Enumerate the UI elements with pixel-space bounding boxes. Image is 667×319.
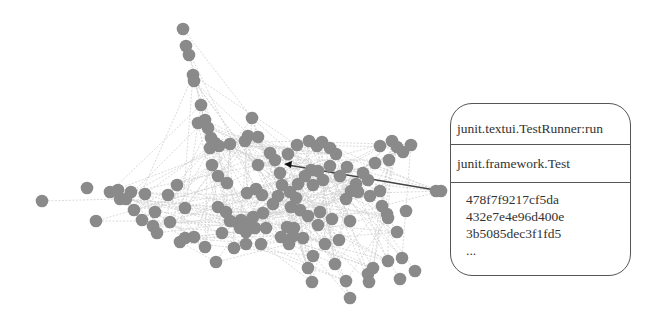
graph-node [256,189,269,202]
graph-node [369,157,382,170]
graph-node [252,131,265,144]
graph-node [367,262,380,275]
graph-node [326,213,339,226]
graph-node [306,276,319,289]
graph-node [164,216,177,229]
graph-node [382,212,395,225]
graph-node [409,265,422,278]
graph-node [246,112,259,125]
graph-node [125,186,138,199]
graph-node [341,161,354,174]
graph-node [288,222,301,235]
graph-node [314,206,327,219]
graph-node [188,231,201,244]
graph-node [344,215,357,228]
graph-node [352,186,365,199]
graph-node [312,219,325,232]
node-detail-callout: junit.textui.TestRunner:run junit.framew… [450,103,631,276]
graph-node [188,75,201,88]
graph-node [382,255,395,268]
graph-node [252,159,265,172]
graph-node [249,222,262,235]
graph-node [183,49,196,62]
graph-node [307,179,320,192]
graph-node [264,147,277,160]
ellipsis: ... [466,242,630,259]
graph-node [340,275,353,288]
graph-node [405,139,418,152]
graph-node [274,167,287,180]
graph-node [324,160,337,173]
graph-node [139,188,152,201]
graph-node [228,242,241,255]
graph-node [255,238,268,251]
graph-node [90,215,103,228]
class-name: junit.framework.Test [451,145,630,183]
graph-node [260,222,273,235]
commit-hash: 3b5085dec3f1fd5 [466,225,630,242]
graph-node [128,204,141,217]
graph-node [291,139,304,152]
commit-hash: 432e7e4e96d400e [466,208,630,225]
graph-node [330,148,343,161]
graph-node [224,138,237,151]
graph-node [81,182,94,195]
graph-node [267,198,280,211]
graph-node [435,185,448,198]
graph-node [151,227,164,240]
graph-node [162,189,175,202]
graph-node [290,192,303,205]
graph-node [36,195,49,208]
graph-node [136,214,149,227]
graph-node [192,117,205,130]
graph-node [204,142,217,155]
graph-node [307,250,320,263]
graph-nodes [36,23,448,305]
graph-node [319,238,332,251]
graph-node [394,273,407,286]
graph-node [344,292,357,305]
graph-node [396,252,409,265]
graph-node [302,262,315,275]
method-name: junit.textui.TestRunner:run [451,104,630,145]
graph-node [329,258,342,271]
graph-node [400,205,413,218]
graph-node [374,140,387,153]
graph-node [195,99,208,112]
commit-hash: 478f7f9217cf5da [466,191,630,208]
graph-node [212,170,225,183]
graph-node [234,222,247,235]
graph-node [302,210,315,223]
graph-node [177,23,190,36]
graph-node [282,148,295,161]
graph-node [240,238,253,251]
graph-node [333,234,346,247]
graph-node [179,202,192,215]
graph-node [357,167,370,180]
graph-node [364,190,377,203]
graph-node [149,206,162,219]
graph-node [171,179,184,192]
graph-node [199,241,212,254]
graph-node [391,226,404,239]
commit-hash-list: 478f7f9217cf5da 432e7e4e96d400e 3b5085de… [451,183,630,259]
graph-node [216,227,229,240]
graph-node [257,207,270,220]
graph-node [383,154,396,167]
graph-node [210,256,223,269]
graph-node [206,159,219,172]
graph-node [283,238,296,251]
graph-node [363,276,376,289]
